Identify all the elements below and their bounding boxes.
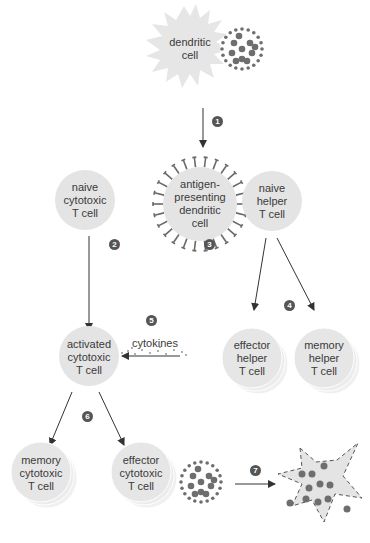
arrow-step-4: [277, 238, 314, 310]
label-dendritic-cell: dendritic cell: [160, 36, 220, 62]
step-badge-2: 2: [109, 239, 120, 250]
step-badge-6: 6: [82, 411, 93, 422]
label-apc: antigen- presenting dendritic cell: [160, 178, 240, 230]
arrow-step-6-effector: [99, 392, 124, 445]
step-badge-7: 7: [250, 465, 261, 476]
arrow-step-3: [254, 238, 266, 310]
step-badge-1: 1: [212, 116, 223, 127]
lysed-cell: [278, 443, 362, 522]
step-badge-3: 3: [204, 239, 215, 250]
arrow-step-6-memory: [50, 392, 72, 445]
label-naive-helper: naive helper T cell: [242, 182, 302, 221]
label-effector-cytotoxic: effector cytotoxic T cell: [108, 454, 174, 493]
label-memory-helper: memory helper T cell: [294, 339, 354, 378]
step-badge-4: 4: [284, 300, 295, 311]
label-activated-cytotoxic: activated cytotoxic T cell: [54, 338, 124, 377]
label-cytokines: cytokines: [125, 337, 185, 350]
label-naive-cytotoxic: naive cytotoxic T cell: [55, 181, 115, 220]
label-effector-helper: effector helper T cell: [222, 339, 282, 378]
label-memory-cytotoxic: memory cytotoxic T cell: [8, 454, 74, 493]
infected-cell-dots: [179, 460, 223, 504]
step-badge-5: 5: [146, 315, 157, 326]
